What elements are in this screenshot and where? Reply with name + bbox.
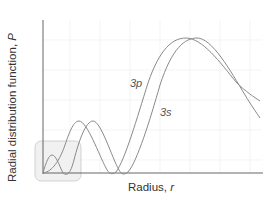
chart-canvas bbox=[0, 0, 275, 206]
y-axis-label: Radial distribution function, P bbox=[6, 33, 18, 182]
series-3s-curve bbox=[43, 38, 260, 174]
series-3s-label: 3s bbox=[160, 106, 172, 118]
x-axis-label: Radius, r bbox=[128, 181, 174, 193]
series-3p-label: 3p bbox=[130, 77, 142, 89]
